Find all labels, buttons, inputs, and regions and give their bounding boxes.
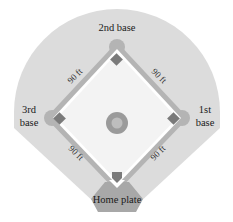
label-third-base-2: base [20, 117, 39, 128]
label-home-plate: Home plate [93, 194, 142, 205]
baseball-diamond-diagram: 2nd base 3rd base 1st base Home plate 90… [0, 0, 233, 222]
label-first-base-1: 1st [199, 104, 211, 115]
label-third-base-1: 3rd [22, 104, 37, 115]
diagram-canvas: 2nd base 3rd base 1st base Home plate 90… [0, 0, 233, 222]
label-first-base-2: base [196, 117, 215, 128]
label-second-base: 2nd base [98, 22, 135, 33]
pitchers-mound-center [112, 118, 123, 129]
